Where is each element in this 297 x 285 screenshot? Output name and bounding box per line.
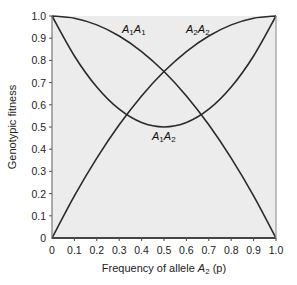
y-tick-label: 0.6 <box>31 99 46 111</box>
y-tick-labels: 00.10.20.30.40.50.60.70.80.91.0 <box>31 10 46 244</box>
y-tick-label: 0.3 <box>31 165 46 177</box>
x-tick-label: 0.1 <box>67 244 82 256</box>
y-tick-label: 0.1 <box>31 210 46 222</box>
x-tick-label: 0.5 <box>157 244 172 256</box>
fitness-chart: 00.10.20.30.40.50.60.70.80.91.0 00.10.20… <box>0 0 297 285</box>
x-tick-label: 0.2 <box>89 244 104 256</box>
x-tick-label: 0.6 <box>179 244 194 256</box>
y-tick-label: 0.4 <box>31 143 46 155</box>
x-tick-label: 0.7 <box>201 244 216 256</box>
x-tick-label: 0.4 <box>134 244 149 256</box>
y-tick-label: 0.8 <box>31 54 46 66</box>
y-tick-label: 0.7 <box>31 77 46 89</box>
y-tick-label: 1.0 <box>31 10 46 22</box>
x-tick-label: 0.3 <box>112 244 127 256</box>
x-tick-label: 0 <box>49 244 55 256</box>
y-tick-label: 0 <box>40 232 46 244</box>
y-tick-label: 0.2 <box>31 188 46 200</box>
x-tick-label: 1.0 <box>269 244 284 256</box>
y-axis-title: Genotypic fitness <box>6 84 18 169</box>
y-tick-label: 0.5 <box>31 121 46 133</box>
y-tick-label: 0.9 <box>31 32 46 44</box>
x-tick-label: 0.8 <box>224 244 239 256</box>
x-tick-labels: 00.10.20.30.40.50.60.70.80.91.0 <box>49 244 283 256</box>
x-axis-title: Frequency of allele A2 (p) <box>102 262 226 276</box>
x-tick-label: 0.9 <box>246 244 261 256</box>
